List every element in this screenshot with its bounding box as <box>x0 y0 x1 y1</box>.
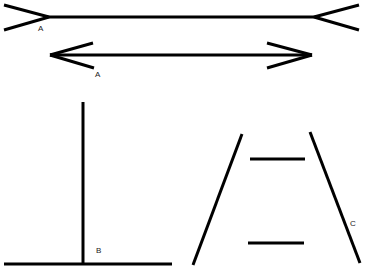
top-left-fin-upper <box>4 5 49 17</box>
label-b: B <box>96 246 101 255</box>
vertical-horizontal-illusion: B <box>4 102 172 265</box>
top-right-fin-upper <box>314 5 359 17</box>
label-a-bottom: A <box>95 70 101 79</box>
muller-lyer-top: A <box>4 5 359 33</box>
top-right-fin-lower <box>314 17 359 30</box>
left-rail <box>193 134 242 265</box>
bottom-right-head-lower <box>267 55 312 68</box>
label-c: C <box>350 219 356 228</box>
bottom-left-head-upper <box>50 43 93 55</box>
illusions-diagram: A A B C <box>0 0 367 280</box>
bottom-left-head-lower <box>50 55 94 68</box>
bottom-right-head-upper <box>267 43 312 55</box>
right-rail <box>310 132 360 263</box>
muller-lyer-bottom: A <box>50 43 312 79</box>
label-a-top: A <box>38 24 44 33</box>
ponzo-illusion: C <box>193 132 360 265</box>
